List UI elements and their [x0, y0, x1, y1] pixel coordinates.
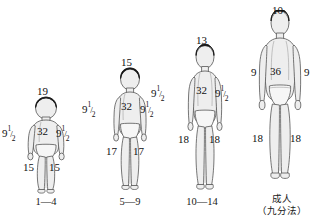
- label-leg-right-child-1-4: 15: [49, 162, 60, 173]
- label-arm-right-adult: 9: [304, 67, 310, 78]
- label-trunk-child-1-4: 32: [37, 126, 48, 137]
- fraction-denominator: 2: [161, 94, 165, 103]
- label-trunk-adult: 36: [270, 66, 281, 77]
- label-leg-left-child-10-14: 18: [178, 134, 189, 145]
- fraction-nine-and-half: 91/2: [215, 86, 231, 101]
- label-head-adult: 10: [272, 5, 283, 16]
- fraction-nine-and-half: 91/2: [56, 126, 72, 141]
- fraction-whole: 9: [215, 87, 221, 99]
- label-arm-left-adult: 9: [251, 67, 257, 78]
- fraction-whole: 9: [140, 103, 146, 115]
- fraction-whole: 9: [56, 127, 62, 139]
- body-outline-child-1-4: [8, 96, 84, 196]
- label-arm-right-child-10-14: 91/2: [215, 84, 231, 102]
- label-head-child-10-14: 13: [196, 35, 207, 46]
- label-arm-left-child-5-9: 91/2: [82, 100, 98, 118]
- fraction-nine-and-half: 91/2: [2, 126, 18, 141]
- diagram-canvas: 19 91/2 32 91/2 15 15 1—4: [0, 0, 320, 218]
- fraction-nine-and-half: 91/2: [82, 102, 98, 117]
- fraction-whole: 9: [2, 127, 8, 139]
- fraction-whole: 9: [151, 87, 157, 99]
- label-head-child-1-4: 19: [37, 86, 48, 97]
- figure-child-1-4: [8, 96, 84, 196]
- age-label-child-10-14: 10—14: [176, 196, 228, 207]
- label-leg-left-child-5-9: 17: [106, 146, 117, 157]
- label-leg-left-adult: 18: [252, 133, 263, 144]
- caption-adult: 成人 （九分法）: [250, 193, 314, 217]
- label-arm-left-child-10-14: 91/2: [151, 84, 167, 102]
- body-outline-child-10-14: [167, 44, 243, 196]
- figure-adult: [240, 10, 320, 186]
- figure-child-10-14: [167, 44, 243, 196]
- label-trunk-child-5-9: 32: [121, 101, 132, 112]
- label-leg-right-child-5-9: 17: [133, 146, 144, 157]
- label-arm-right-child-5-9: 91/2: [140, 100, 156, 118]
- fraction-denominator: 2: [12, 134, 16, 143]
- fraction-denominator: 2: [225, 94, 229, 103]
- caption-adult-line1: 成人: [250, 193, 314, 205]
- caption-adult-line2: （九分法）: [250, 205, 314, 217]
- fraction-denominator: 2: [92, 110, 96, 119]
- label-head-child-5-9: 15: [121, 57, 132, 68]
- fraction-denominator: 2: [150, 110, 154, 119]
- label-leg-left-child-1-4: 15: [23, 162, 34, 173]
- label-leg-right-adult: 18: [290, 133, 301, 144]
- label-arm-left-child-1-4: 91/2: [2, 124, 18, 142]
- age-label-child-5-9: 5—9: [106, 196, 154, 207]
- label-arm-right-child-1-4: 91/2: [56, 124, 72, 142]
- age-label-child-1-4: 1—4: [22, 196, 70, 207]
- label-trunk-child-10-14: 32: [196, 85, 207, 96]
- body-outline-adult: [240, 10, 320, 186]
- fraction-whole: 9: [82, 103, 88, 115]
- label-leg-right-child-10-14: 18: [209, 134, 220, 145]
- fraction-denominator: 2: [66, 134, 70, 143]
- fraction-nine-and-half: 91/2: [140, 102, 156, 117]
- fraction-nine-and-half: 91/2: [151, 86, 167, 101]
